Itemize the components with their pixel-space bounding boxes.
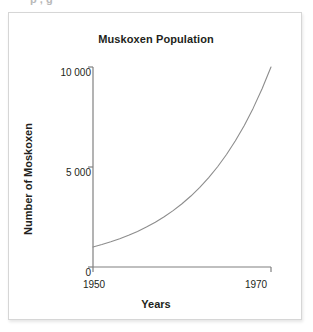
y-tick-label-0: 0 (45, 267, 91, 278)
x-tick-label-1950: 1950 (71, 279, 117, 290)
chart-area: Muskoxen Population 10 000 5 000 0 1950 … (9, 13, 303, 321)
y-tick-label-10000: 10 000 (45, 67, 91, 78)
x-tick-label-1970: 1970 (233, 279, 279, 290)
clipped-caption-text: p , g (30, 0, 240, 7)
y-tick-label-5000: 5 000 (45, 167, 91, 178)
x-axis-title: Years (9, 298, 303, 310)
population-growth-curve (93, 67, 271, 247)
figure-frame: Muskoxen Population 10 000 5 000 0 1950 … (8, 12, 302, 320)
y-axis-title: Number of Moskoxen (22, 99, 34, 259)
